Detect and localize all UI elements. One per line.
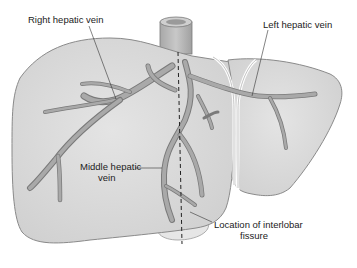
label-interlobar-fissure-1: Location of interlobar xyxy=(214,219,303,230)
label-interlobar-fissure-2: fissure xyxy=(240,230,268,241)
left-lobe xyxy=(228,59,342,196)
label-middle-hepatic-vein-2: vein xyxy=(98,172,115,183)
label-left-hepatic-vein: Left hepatic vein xyxy=(263,19,332,30)
right-lobe xyxy=(12,38,234,243)
label-middle-hepatic-vein-1: Middle hepatic xyxy=(80,161,142,172)
label-right-hepatic-vein: Right hepatic vein xyxy=(28,14,104,25)
liver-diagram: Right hepatic vein Left hepatic vein Mid… xyxy=(0,0,357,268)
